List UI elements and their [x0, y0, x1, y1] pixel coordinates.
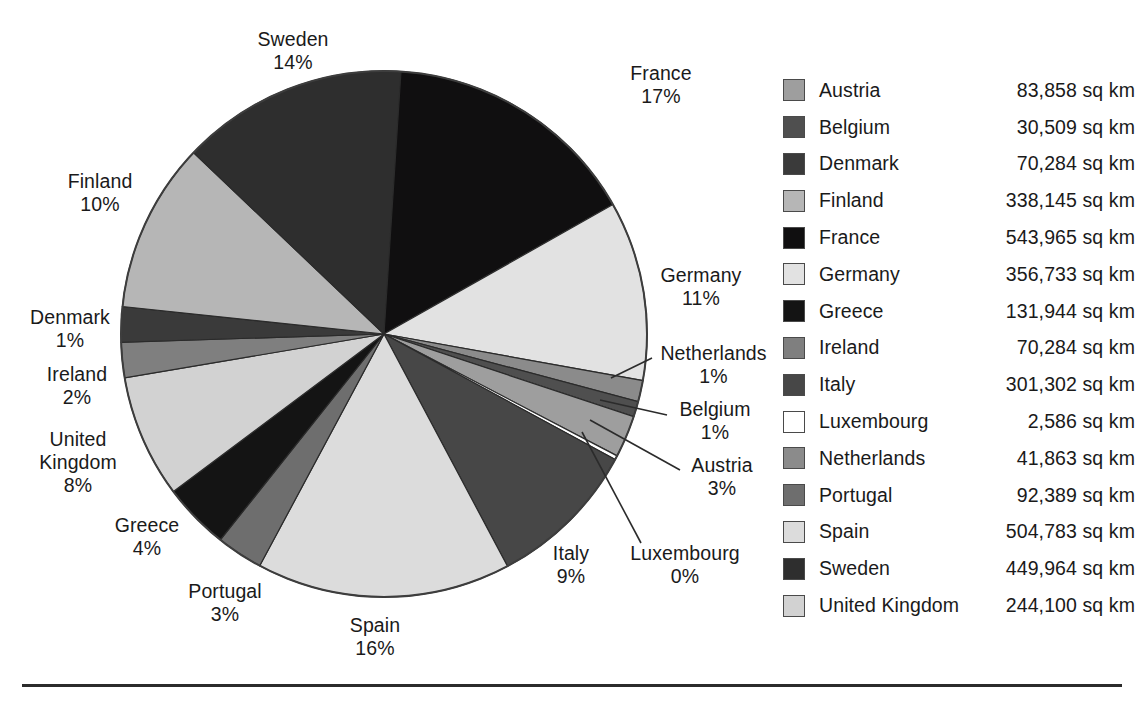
- legend-swatch-sweden: [783, 558, 805, 580]
- callout-denmark-percent: 1%: [10, 329, 130, 352]
- callout-italy: Italy 9%: [531, 542, 611, 588]
- callout-germany-percent: 11%: [641, 287, 761, 310]
- legend-swatch-luxembourg: [783, 411, 805, 433]
- legend-row-spain[interactable]: Spain504,783 sq km: [783, 514, 1135, 551]
- legend-label-portugal: Portugal: [819, 484, 1017, 507]
- legend-label-denmark: Denmark: [819, 152, 1017, 175]
- callout-portugal-percent: 3%: [165, 603, 285, 626]
- legend-row-finland[interactable]: Finland338,145 sq km: [783, 182, 1135, 219]
- legend-swatch-denmark: [783, 153, 805, 175]
- legend-row-austria[interactable]: Austria83,858 sq km: [783, 72, 1135, 109]
- legend-label-ireland: Ireland: [819, 336, 1017, 359]
- legend-label-france: France: [819, 226, 1006, 249]
- legend-label-spain: Spain: [819, 520, 1006, 543]
- callout-netherlands-label: Netherlands: [646, 342, 781, 365]
- callout-luxembourg: Luxembourg 0%: [610, 542, 760, 588]
- legend-value-denmark: 70,284 sq km: [1017, 152, 1135, 175]
- callout-germany-label: Germany: [641, 264, 761, 287]
- legend-swatch-finland: [783, 190, 805, 212]
- callout-belgium-percent: 1%: [660, 421, 770, 444]
- legend-row-ireland[interactable]: Ireland70,284 sq km: [783, 330, 1135, 367]
- callout-greece-label: Greece: [92, 514, 202, 537]
- legend-swatch-italy: [783, 374, 805, 396]
- pie-chart-figure: Sweden 14% France 17% Germany 11% Nether…: [0, 0, 1139, 706]
- legend-row-sweden[interactable]: Sweden449,964 sq km: [783, 550, 1135, 587]
- callout-spain: Spain 16%: [320, 614, 430, 660]
- callout-portugal: Portugal 3%: [165, 580, 285, 626]
- legend-row-france[interactable]: France543,965 sq km: [783, 219, 1135, 256]
- callout-denmark: Denmark 1%: [10, 306, 130, 352]
- legend-swatch-greece: [783, 300, 805, 322]
- callout-ireland-percent: 2%: [22, 386, 132, 409]
- callout-belgium: Belgium 1%: [660, 398, 770, 444]
- callout-spain-label: Spain: [320, 614, 430, 637]
- legend-label-italy: Italy: [819, 373, 1006, 396]
- legend-row-greece[interactable]: Greece131,944 sq km: [783, 293, 1135, 330]
- legend-row-portugal[interactable]: Portugal92,389 sq km: [783, 477, 1135, 514]
- legend-value-portugal: 92,389 sq km: [1017, 484, 1135, 507]
- callout-germany: Germany 11%: [641, 264, 761, 310]
- legend-swatch-portugal: [783, 484, 805, 506]
- legend-row-united-kingdom[interactable]: United Kingdom244,100 sq km: [783, 587, 1135, 624]
- legend-value-united-kingdom: 244,100 sq km: [1006, 594, 1135, 617]
- legend-value-spain: 504,783 sq km: [1006, 520, 1135, 543]
- legend-swatch-france: [783, 227, 805, 249]
- legend-value-france: 543,965 sq km: [1006, 226, 1135, 249]
- callout-ireland-label: Ireland: [22, 363, 132, 386]
- legend-label-austria: Austria: [819, 79, 1017, 102]
- legend-row-denmark[interactable]: Denmark70,284 sq km: [783, 146, 1135, 183]
- legend-swatch-netherlands: [783, 447, 805, 469]
- legend-label-germany: Germany: [819, 263, 1006, 286]
- callout-spain-percent: 16%: [320, 637, 430, 660]
- legend-row-luxembourg[interactable]: Luxembourg2,586 sq km: [783, 403, 1135, 440]
- legend-label-united-kingdom: United Kingdom: [819, 594, 1006, 617]
- legend-swatch-united-kingdom: [783, 595, 805, 617]
- callout-ireland: Ireland 2%: [22, 363, 132, 409]
- legend-label-greece: Greece: [819, 300, 1006, 323]
- legend-label-netherlands: Netherlands: [819, 447, 1017, 470]
- legend-row-belgium[interactable]: Belgium30,509 sq km: [783, 109, 1135, 146]
- callout-austria-percent: 3%: [672, 477, 772, 500]
- legend-value-greece: 131,944 sq km: [1006, 300, 1135, 323]
- legend-row-germany[interactable]: Germany356,733 sq km: [783, 256, 1135, 293]
- legend-value-germany: 356,733 sq km: [1006, 263, 1135, 286]
- callout-netherlands-percent: 1%: [646, 365, 781, 388]
- pie-chart-area: Sweden 14% France 17% Germany 11% Nether…: [0, 0, 780, 672]
- legend-swatch-austria: [783, 79, 805, 101]
- legend: Austria83,858 sq kmBelgium30,509 sq kmDe…: [783, 72, 1135, 624]
- callout-france-label: France: [601, 62, 721, 85]
- callout-sweden-percent: 14%: [233, 51, 353, 74]
- legend-row-italy[interactable]: Italy301,302 sq km: [783, 366, 1135, 403]
- legend-value-ireland: 70,284 sq km: [1017, 336, 1135, 359]
- legend-swatch-belgium: [783, 116, 805, 138]
- legend-swatch-ireland: [783, 337, 805, 359]
- legend-swatch-germany: [783, 263, 805, 285]
- callout-greece: Greece 4%: [92, 514, 202, 560]
- legend-value-sweden: 449,964 sq km: [1006, 557, 1135, 580]
- callout-sweden: Sweden 14%: [233, 28, 353, 74]
- callout-finland-percent: 10%: [45, 193, 155, 216]
- legend-swatch-spain: [783, 521, 805, 543]
- callout-france: France 17%: [601, 62, 721, 108]
- callout-finland: Finland 10%: [45, 170, 155, 216]
- callout-netherlands: Netherlands 1%: [646, 342, 781, 388]
- legend-label-finland: Finland: [819, 189, 1006, 212]
- callout-italy-percent: 9%: [531, 565, 611, 588]
- legend-row-netherlands[interactable]: Netherlands41,863 sq km: [783, 440, 1135, 477]
- callout-austria: Austria 3%: [672, 454, 772, 500]
- callout-luxembourg-percent: 0%: [610, 565, 760, 588]
- callout-portugal-label: Portugal: [165, 580, 285, 603]
- legend-label-sweden: Sweden: [819, 557, 1006, 580]
- callout-finland-label: Finland: [45, 170, 155, 193]
- callout-united-kingdom-percent: 8%: [18, 474, 138, 497]
- callout-greece-percent: 4%: [92, 537, 202, 560]
- legend-value-luxembourg: 2,586 sq km: [1028, 410, 1135, 433]
- callout-denmark-label: Denmark: [10, 306, 130, 329]
- horizontal-rule: [22, 684, 1122, 687]
- legend-value-finland: 338,145 sq km: [1006, 189, 1135, 212]
- legend-value-belgium: 30,509 sq km: [1017, 116, 1135, 139]
- callout-belgium-label: Belgium: [660, 398, 770, 421]
- legend-label-luxembourg: Luxembourg: [819, 410, 1028, 433]
- callout-italy-label: Italy: [531, 542, 611, 565]
- callout-luxembourg-label: Luxembourg: [610, 542, 760, 565]
